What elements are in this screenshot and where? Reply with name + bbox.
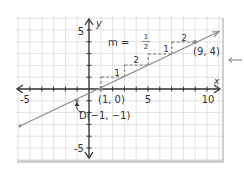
x-tick-label-10: 10 (202, 94, 215, 105)
x-tick-label-5: 5 (145, 94, 151, 105)
point-1-0 (99, 87, 103, 91)
step-1-rise: 1 (114, 68, 120, 78)
slope-numerator: 1 (144, 33, 148, 41)
y-tick-label-5: 5 (78, 26, 84, 37)
point-1-0-label: (1, 0) (98, 94, 125, 105)
x-axis-label: x (213, 76, 220, 86)
step-1-run: 2 (133, 55, 139, 65)
line-start-dot (19, 125, 22, 128)
slope-graph: y x -5 5 10 5 -5 1 2 1 2 m = 1 2 (1, 0) … (0, 0, 244, 175)
point-D-label: D(−1, −1) (79, 110, 130, 121)
point-9-4 (193, 40, 197, 44)
step-2-run: 2 (181, 33, 187, 43)
y-tick-label-neg5: -5 (74, 143, 84, 154)
y-axis-label: y (95, 18, 103, 29)
x-tick-label-neg5: -5 (20, 94, 30, 105)
slope-denominator: 2 (144, 43, 148, 51)
slope-label-prefix: m = (108, 37, 129, 48)
point-9-4-label: (9, 4) (193, 46, 220, 57)
step-2-rise: 1 (163, 44, 169, 54)
